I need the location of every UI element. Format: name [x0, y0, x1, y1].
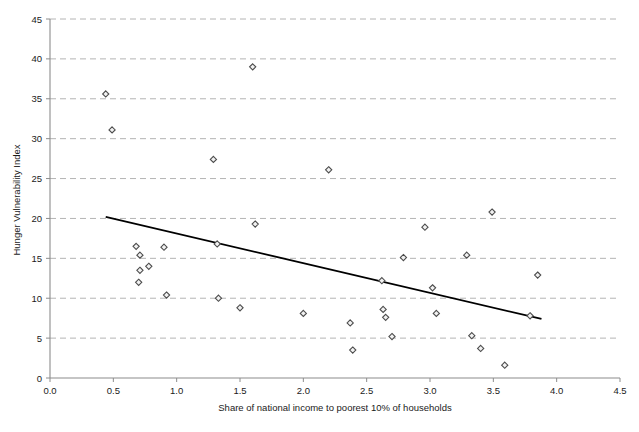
- scatter-chart: 051015202530354045 0.00.51.01.52.02.53.0…: [0, 0, 639, 432]
- x-axis-title: Share of national income to poorest 10% …: [218, 402, 452, 413]
- x-tick-label: 1.0: [170, 385, 183, 396]
- x-tick-label: 2.5: [360, 385, 373, 396]
- y-tick-label: 45: [31, 14, 42, 25]
- y-tick-label: 5: [37, 333, 42, 344]
- x-tick-label: 4.0: [550, 385, 563, 396]
- y-tick-label: 40: [31, 53, 42, 64]
- x-tick-label: 3.0: [423, 385, 436, 396]
- y-axis-title: Hunger Vulnerability Index: [11, 144, 22, 255]
- x-tick-label: 2.0: [297, 385, 310, 396]
- x-tick-label: 0.0: [43, 385, 56, 396]
- x-tick-label: 3.5: [487, 385, 500, 396]
- y-tick-label: 30: [31, 133, 42, 144]
- y-tick-label: 20: [31, 213, 42, 224]
- x-tick-label: 0.5: [107, 385, 120, 396]
- y-tick-label: 15: [31, 253, 42, 264]
- x-tick-label: 1.5: [233, 385, 246, 396]
- y-tick-label: 10: [31, 293, 42, 304]
- y-tick-label: 25: [31, 173, 42, 184]
- chart-background: [0, 0, 639, 432]
- chart-canvas: 051015202530354045 0.00.51.01.52.02.53.0…: [0, 0, 639, 432]
- x-tick-label: 4.5: [613, 385, 626, 396]
- y-tick-label: 35: [31, 93, 42, 104]
- y-tick-label: 0: [37, 373, 42, 384]
